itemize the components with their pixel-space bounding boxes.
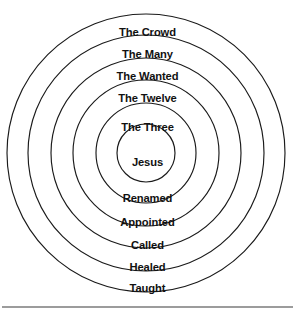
ring-label-the-three: The Three bbox=[0, 121, 295, 133]
ring-label-appointed: Appointed bbox=[0, 216, 295, 228]
ring-label-the-twelve: The Twelve bbox=[0, 92, 295, 104]
ring-label-renamed: Renamed bbox=[0, 192, 295, 204]
ring-circle-the-three bbox=[96, 103, 196, 203]
ring-label-the-wanted: The Wanted bbox=[0, 70, 295, 82]
ring-label-the-crowd: The Crowd bbox=[0, 26, 295, 38]
ring-label-the-many: The Many bbox=[0, 48, 295, 60]
ring-label-called: Called bbox=[0, 239, 295, 251]
concentric-circles-diagram: The Crowd The Many The Wanted The Twelve… bbox=[0, 0, 295, 317]
ring-label-taught: Taught bbox=[0, 282, 295, 294]
ring-label-healed: Healed bbox=[0, 261, 295, 273]
ring-label-jesus: Jesus bbox=[0, 156, 295, 168]
